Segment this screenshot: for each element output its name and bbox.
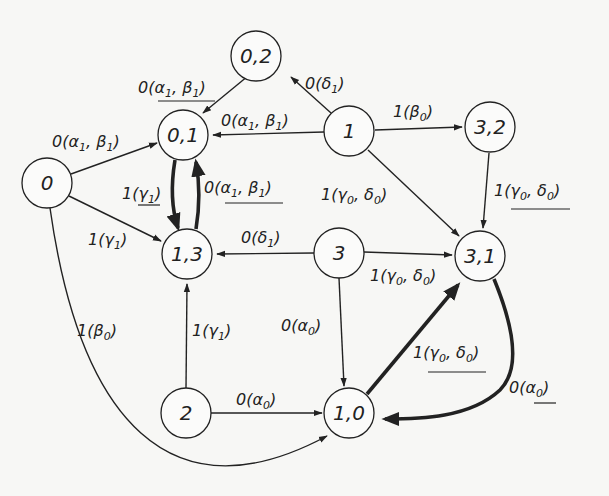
node-3-1: 3,1 [455,231,505,281]
edge-3-to-13 [217,253,314,254]
state-diagram: 0(α1, β1) 0(α1, β1) 0(δ1) 0(α1, β1) 1(β0… [0,0,609,496]
svg-text:1: 1 [343,119,356,143]
node-3-2: 3,2 [465,102,515,152]
label-0-to-01: 0(α1, β1) [52,132,120,154]
svg-text:0,2: 0,2 [240,44,272,68]
edge-13-to-01 [196,162,199,229]
edge-1-to-01 [213,132,324,135]
node-3: 3 [314,228,364,278]
svg-text:3,1: 3,1 [464,244,496,268]
node-1-3: 1,3 [162,229,212,279]
label-1-to-02: 0(δ1) [305,74,344,96]
label-3-to-13: 0(δ1) [241,228,280,250]
node-0-1: 0,1 [158,110,208,160]
edge-3-to-10 [339,278,344,386]
label-0-to-10: 1(β0) [77,321,117,343]
label-02-to-01: 0(α1, β1) [138,78,206,100]
edge-2-to-13 [186,284,187,388]
label-31-to-10: 0(α0) [509,378,549,400]
label-3-to-10: 0(α0) [281,316,321,338]
label-0-to-13: 1(γ1) [88,230,127,252]
label-1-to-32: 1(β0) [393,102,433,124]
node-2: 2 [161,388,211,438]
svg-text:3: 3 [333,241,346,265]
label-10-to-31: 1(γ0, δ0) [413,343,479,365]
edge-01-to-13 [172,160,178,228]
label-2-to-10: 0(α0) [236,390,276,412]
label-01-to-13: 1(γ1) [122,184,161,206]
diagram-svg: 0(α1, β1) 0(α1, β1) 0(δ1) 0(α1, β1) 1(β0… [0,0,609,496]
edge-32-to-31 [483,153,489,228]
svg-text:2: 2 [180,401,193,425]
label-3-to-31: 1(γ0, δ0) [370,266,436,288]
label-13-to-01: 0(α1, β1) [204,178,272,200]
node-1-0: 1,0 [324,388,374,438]
edge-10-to-31 [367,285,458,394]
label-1-to-01: 0(α1, β1) [221,111,289,133]
edge-02-to-01 [203,76,248,113]
edge-1-to-32 [375,127,462,130]
node-0: 0 [22,158,72,208]
label-2-to-13: 1(γ1) [192,321,231,343]
svg-text:1,3: 1,3 [171,242,203,266]
svg-text:1,0: 1,0 [333,401,365,425]
svg-text:0,1: 0,1 [167,123,199,147]
edge-3-to-31 [364,252,452,255]
svg-text:0: 0 [41,171,54,195]
label-1-to-31: 1(γ0, δ0) [321,185,387,207]
label-32-to-31: 1(γ0, δ0) [494,181,560,203]
node-1: 1 [324,106,374,156]
node-0-2: 0,2 [231,31,281,81]
svg-text:3,2: 3,2 [474,115,506,139]
